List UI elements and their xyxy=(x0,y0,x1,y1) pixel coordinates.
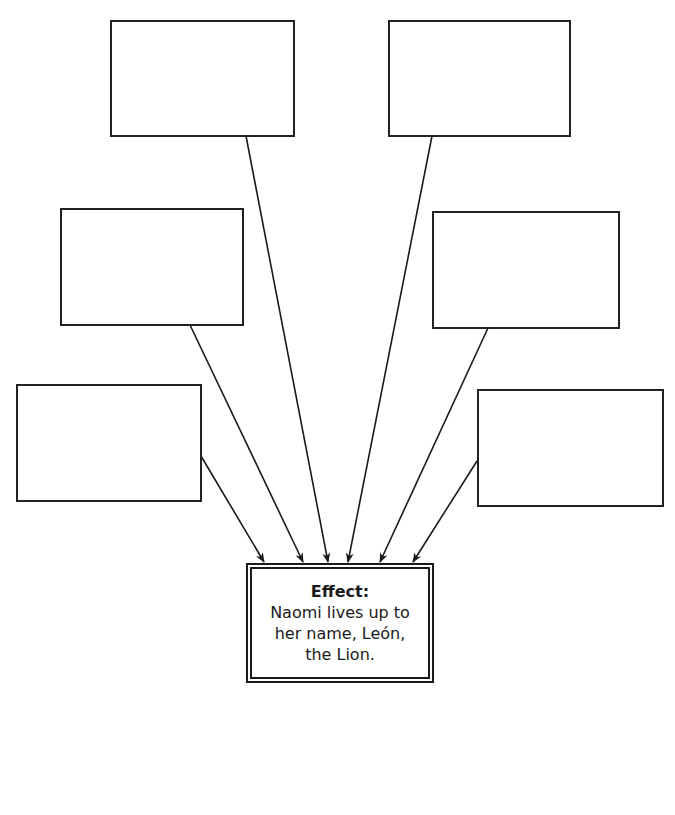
arrow-from-top-right xyxy=(348,136,432,562)
cause-box-top-left[interactable] xyxy=(110,20,295,137)
effect-title: Effect: xyxy=(311,582,369,602)
arrow-from-mid-right xyxy=(380,328,488,562)
arrow-from-top-left xyxy=(246,136,328,562)
effect-line-3: the Lion. xyxy=(305,644,375,665)
arrow-from-bottom-left xyxy=(201,456,264,562)
cause-box-bottom-right[interactable] xyxy=(477,389,664,507)
arrow-from-bottom-right xyxy=(413,461,477,562)
cause-box-bottom-left[interactable] xyxy=(16,384,202,502)
arrow-from-mid-left xyxy=(190,325,303,562)
cause-box-mid-left[interactable] xyxy=(60,208,244,326)
cause-box-mid-right[interactable] xyxy=(432,211,620,329)
effect-box: Effect: Naomi lives up to her name, León… xyxy=(246,563,434,683)
effect-line-1: Naomi lives up to xyxy=(270,602,410,623)
effect-line-2: her name, León, xyxy=(275,623,406,644)
cause-box-top-right[interactable] xyxy=(388,20,571,137)
